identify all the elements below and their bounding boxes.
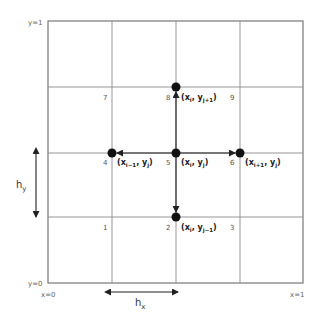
cell-number-4: 4	[103, 159, 108, 167]
label-y-bottom: y=0	[28, 280, 42, 288]
node-5	[172, 149, 181, 158]
cell-number-8: 8	[166, 94, 170, 102]
label-node-4: (xi−1, yj)	[117, 158, 153, 169]
label-hy: hy	[16, 179, 27, 193]
node-8	[172, 83, 181, 92]
cell-number-3: 3	[230, 224, 234, 232]
cell-number-2: 2	[166, 224, 170, 232]
cell-number-9: 9	[230, 94, 234, 102]
label-x-left: x=0	[41, 291, 55, 299]
node-2	[172, 213, 181, 222]
label-y-top: y=1	[28, 19, 42, 27]
cell-number-6: 6	[230, 159, 235, 167]
label-hx: hx	[135, 297, 146, 311]
label-node-8: (xi, yj+1)	[181, 93, 217, 104]
label-x-right: x=1	[290, 291, 304, 299]
node-labels: (xi−1, yj) (xi, yj) (xi+1, yj) (xi, yj+1…	[117, 93, 281, 234]
label-node-2: (xi, yj−1)	[181, 223, 217, 234]
stencil-diagram: 1 2 3 4 5 6 7 8 9 (xi−1, yj) (xi, yj) (x…	[0, 0, 319, 319]
cell-number-1: 1	[103, 224, 107, 232]
cell-number-7: 7	[103, 94, 107, 102]
label-node-5: (xi, yj)	[181, 158, 208, 169]
label-node-6: (xi+1, yj)	[245, 158, 281, 169]
node-4	[108, 149, 117, 158]
cell-number-5: 5	[166, 159, 170, 167]
node-6	[236, 149, 245, 158]
